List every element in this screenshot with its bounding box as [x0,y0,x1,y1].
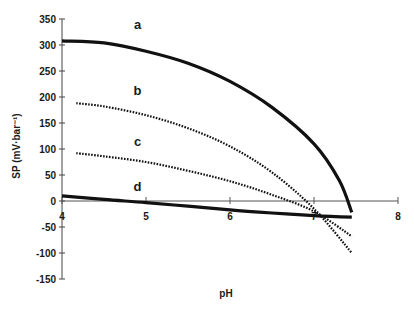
curve-label-a: a [134,17,142,32]
y-tick-label: 250 [39,66,56,77]
y-tick-label: -150 [36,274,56,285]
y-tick-label: -100 [36,248,56,259]
y-tick-label: 300 [39,40,56,51]
y-tick-label: -50 [42,222,57,233]
curves [62,41,352,253]
curve-d [62,196,352,217]
y-tick-label: 350 [39,14,56,25]
sp-vs-ph-chart: 350300250200150100500-50-100-150 45678 a… [0,0,414,319]
x-tick-label: 5 [143,211,149,222]
y-tick-label: 200 [39,92,56,103]
y-tick-label: 100 [39,144,56,155]
curve-label-b: b [134,83,142,98]
curve-labels: abcd [134,17,142,193]
curve-label-d: d [134,179,142,194]
y-tick-label: 50 [45,170,57,181]
x-tick-label: 8 [395,211,401,222]
x-tick-label: 4 [59,211,65,222]
curve-a [62,41,352,213]
y-tick-label: 150 [39,118,56,129]
curve-c [76,153,352,236]
curve-label-c: c [134,134,141,149]
x-tick-label: 6 [227,211,233,222]
y-axis: 350300250200150100500-50-100-150 [36,14,65,285]
y-tick-label: 0 [50,196,56,207]
x-axis-title: pH [219,288,232,299]
curve-b [76,103,352,253]
y-axis-title: SP (mV·bar⁻¹) [11,113,22,178]
